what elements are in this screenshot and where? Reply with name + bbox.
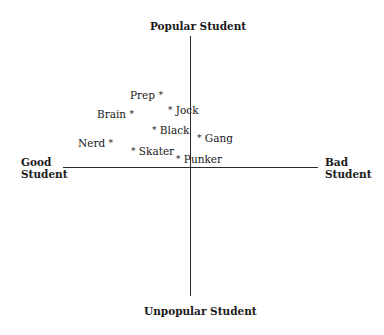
point-punker: * Punker: [176, 153, 222, 165]
point-label: Gang: [205, 132, 233, 144]
point-label: Jock: [176, 104, 199, 116]
asterisk-marker-icon: *: [129, 108, 134, 120]
horizontal-axis: [63, 167, 318, 168]
axis-label-left-line2: Student: [21, 168, 68, 180]
asterisk-marker-icon: *: [152, 124, 157, 136]
asterisk-marker-icon: *: [197, 132, 202, 144]
point-prep: Prep *: [130, 89, 163, 101]
point-jock: * Jock: [168, 104, 199, 116]
point-label: Black: [160, 124, 190, 136]
axis-label-left-line1: Good: [21, 156, 68, 168]
point-gang: * Gang: [197, 132, 233, 144]
asterisk-marker-icon: *: [176, 153, 181, 165]
point-label: Brain: [97, 108, 126, 120]
point-skater: * Skater: [131, 145, 174, 157]
asterisk-marker-icon: *: [158, 89, 163, 101]
axis-label-top: Popular Student: [150, 20, 246, 32]
asterisk-marker-icon: *: [131, 145, 136, 157]
point-nerd: Nerd *: [78, 137, 113, 149]
point-black: * Black: [152, 124, 189, 136]
point-label: Prep: [130, 89, 155, 101]
point-label: Nerd: [78, 137, 105, 149]
asterisk-marker-icon: *: [109, 137, 114, 149]
axis-label-right-line2: Student: [325, 168, 372, 180]
point-label: Skater: [139, 145, 174, 157]
axis-label-left: Good Student: [21, 156, 68, 180]
point-label: Punker: [184, 153, 222, 165]
vertical-axis: [190, 36, 191, 296]
asterisk-marker-icon: *: [168, 104, 173, 116]
point-brain: Brain *: [97, 108, 134, 120]
axis-label-right: Bad Student: [325, 156, 372, 180]
axis-label-right-line1: Bad: [325, 156, 372, 168]
axis-label-bottom: Unpopular Student: [144, 305, 257, 317]
